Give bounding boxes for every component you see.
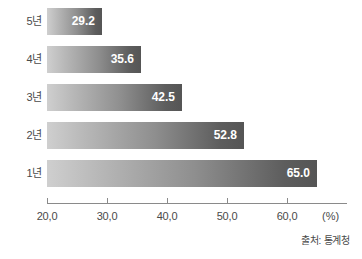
bar-row: 2년52.8 [0, 122, 362, 149]
bar[interactable]: 29.2 [47, 8, 102, 35]
bar-value-label: 35.6 [111, 46, 134, 73]
bar[interactable]: 42.5 [47, 84, 182, 111]
category-label: 5년 [4, 8, 42, 35]
bar-chart: 5년29.24년35.63년42.52년52.81년65.0 20,030,04… [0, 0, 362, 259]
bar-row: 3년42.5 [0, 84, 362, 111]
bar[interactable]: 52.8 [47, 122, 244, 149]
bar-row: 5년29.2 [0, 8, 362, 35]
source-note: 출처: 통계청 [301, 232, 350, 247]
plot-area: 5년29.24년35.63년42.52년52.81년65.0 [0, 0, 362, 205]
category-label: 3년 [4, 84, 42, 111]
bar[interactable]: 65.0 [47, 160, 317, 187]
category-label: 1년 [4, 160, 42, 187]
bar[interactable]: 35.6 [47, 46, 141, 73]
axis-tick-label: 50,0 [205, 210, 249, 222]
bar-value-label: 42.5 [152, 84, 175, 111]
axis-tick-label: 40,0 [145, 210, 189, 222]
axis-unit-label: (%) [322, 210, 339, 222]
category-label: 4년 [4, 46, 42, 73]
axis-tick-label: 30,0 [85, 210, 129, 222]
bar-row: 1년65.0 [0, 160, 362, 187]
bar-row: 4년35.6 [0, 46, 362, 73]
bar-value-label: 29.2 [72, 8, 95, 35]
category-label: 2년 [4, 122, 42, 149]
bar-value-label: 52.8 [214, 122, 237, 149]
axis-tick-label: 20,0 [25, 210, 69, 222]
axis-tick-label: 60,0 [265, 210, 309, 222]
bar-value-label: 65.0 [287, 160, 310, 187]
